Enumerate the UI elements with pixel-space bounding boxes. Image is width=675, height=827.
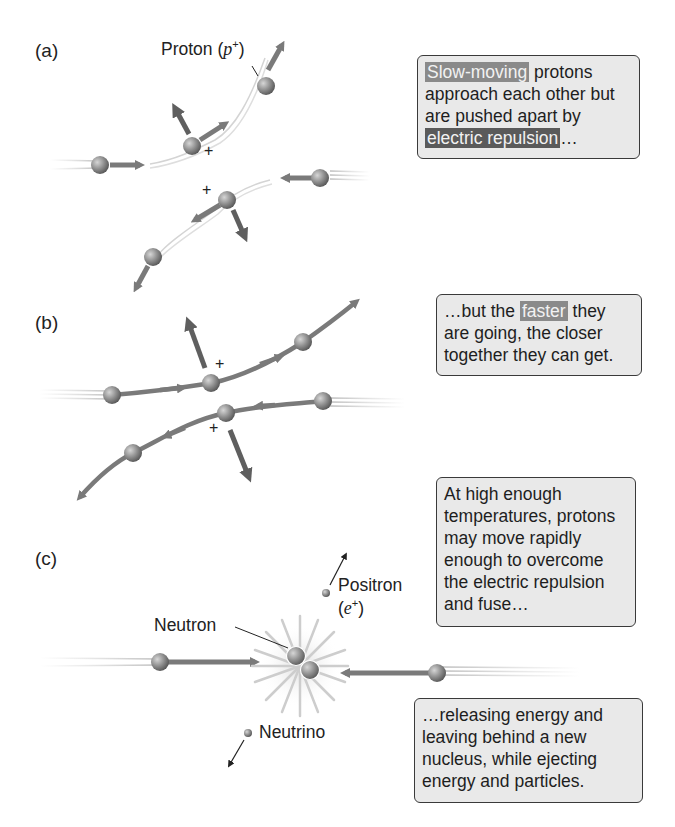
trajectory-path (112, 302, 356, 395)
positron-label: Positron (338, 575, 402, 596)
proton-icon (311, 169, 329, 187)
caption-box-a: Slow-moving protons approach each other … (417, 55, 640, 159)
repulsion-force-arrow (230, 430, 248, 475)
panel-label-a: (a) (35, 40, 58, 62)
panel-a-diagram (50, 45, 370, 288)
velocity-arrow (200, 124, 225, 140)
proton-icon (217, 404, 235, 422)
charge-symbol: + (209, 419, 218, 437)
proton-icon (144, 248, 162, 266)
trajectory-trail (50, 58, 268, 169)
neutron-label: Neutron (154, 615, 216, 636)
highlight-electric-repulsion: electric repulsion (425, 128, 560, 148)
trajectory-trail (40, 390, 405, 407)
proton-icon (183, 137, 201, 155)
proton-icon (314, 392, 332, 410)
caption-box-c-bottom: …releasing energy and leaving behind a n… (414, 698, 643, 803)
velocity-arrow (160, 388, 182, 390)
neutron-icon (301, 661, 320, 680)
energy-burst-icon (252, 616, 348, 716)
repulsion-force-arrow (233, 210, 244, 235)
repulsion-force-arrow (189, 324, 205, 368)
trajectory-path (80, 401, 323, 497)
velocity-arrow (258, 405, 275, 406)
neutrino-icon (244, 729, 252, 737)
proton-icon (151, 653, 169, 671)
leader-line (252, 66, 258, 76)
panel-b-diagram (40, 302, 405, 497)
velocity-arrow (136, 266, 148, 288)
charge-symbol: + (215, 355, 224, 373)
caption-box-b: …but the faster they are going, the clos… (436, 294, 642, 376)
panel-label-c: (c) (35, 548, 57, 570)
proton-icon (103, 386, 121, 404)
positron-icon (322, 589, 330, 597)
highlight-faster: faster (520, 301, 568, 321)
proton-icon (202, 374, 220, 392)
proton-label: Proton (p+) (161, 38, 245, 60)
proton-icon (218, 191, 236, 209)
panel-label-b: (b) (35, 312, 58, 334)
proton-icon (257, 77, 275, 95)
proton-icon (294, 333, 312, 351)
velocity-arrow (268, 45, 282, 70)
caption-box-c-top: At high enough temperatures, protons may… (436, 477, 636, 627)
neutrino-label: Neutrino (259, 722, 325, 743)
highlight-slow-moving: Slow-moving (425, 62, 529, 82)
charge-symbol: + (204, 142, 213, 160)
velocity-arrow (195, 205, 220, 220)
repulsion-force-arrow (176, 110, 189, 134)
proton-icon (124, 444, 142, 462)
proton-icon (287, 647, 306, 666)
proton-icon (91, 156, 109, 174)
charge-symbol: + (202, 181, 211, 199)
neutrino-direction-arrow (230, 740, 244, 764)
positron-symbol: (e+) (338, 597, 364, 619)
proton-icon (428, 664, 446, 682)
trajectory-trail (158, 171, 370, 258)
